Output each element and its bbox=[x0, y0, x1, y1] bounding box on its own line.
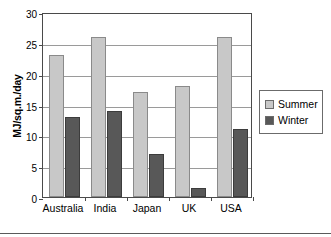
plot-area: 051015202530 bbox=[42, 13, 252, 198]
x-axis-tick-labels: AustraliaIndiaJapanUKUSA bbox=[42, 202, 252, 220]
legend-swatch-icon bbox=[265, 100, 274, 109]
x-axis-tick-label: USA bbox=[220, 202, 242, 214]
x-axis-tick-label: Japan bbox=[133, 202, 162, 214]
legend-swatch-icon bbox=[265, 116, 274, 125]
legend-label: Winter bbox=[278, 114, 308, 126]
y-axis-tick-label: 15 bbox=[7, 101, 37, 112]
y-axis-tick-label: 30 bbox=[7, 9, 37, 20]
bar-group bbox=[43, 14, 253, 197]
x-axis-tick-label: UK bbox=[182, 202, 197, 214]
bar-usa-summer bbox=[217, 37, 232, 197]
x-axis-tick-label: Australia bbox=[43, 202, 84, 214]
bottom-divider bbox=[0, 233, 331, 235]
bar-chart-figure: MJ/sq.m./day 051015202530 AustraliaIndia… bbox=[0, 0, 331, 237]
x-axis-tick-mark bbox=[211, 197, 212, 201]
legend-label: Summer bbox=[278, 98, 318, 110]
x-axis-tick-label: India bbox=[94, 202, 117, 214]
y-axis-tick-mark bbox=[39, 199, 43, 200]
x-axis-tick-mark bbox=[127, 197, 128, 201]
legend-entry: Summer bbox=[265, 96, 318, 112]
chart-legend: SummerWinter bbox=[259, 90, 323, 134]
x-axis-tick-mark bbox=[85, 197, 86, 201]
bar-usa-winter bbox=[233, 129, 248, 197]
y-axis-tick-label: 5 bbox=[7, 163, 37, 174]
y-axis-tick-label: 10 bbox=[7, 132, 37, 143]
x-axis-tick-mark bbox=[169, 197, 170, 201]
y-axis-tick-label: 0 bbox=[7, 194, 37, 205]
y-axis-tick-label: 20 bbox=[7, 70, 37, 81]
y-axis-tick-label: 25 bbox=[7, 39, 37, 50]
legend-entry: Winter bbox=[265, 112, 318, 128]
x-axis-tick-mark bbox=[253, 197, 254, 201]
